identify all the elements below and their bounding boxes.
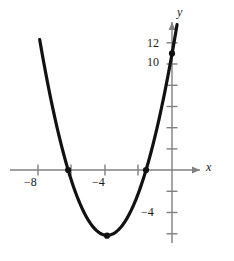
chart-canvas [0, 0, 234, 261]
data-point-marker [143, 167, 149, 173]
x-tick-label-neg4: −4 [92, 176, 105, 188]
data-point-marker [65, 167, 71, 173]
y-axis-arrowhead [169, 22, 176, 30]
data-point-marker [104, 233, 110, 239]
y-tick-label-12: 12 [147, 37, 159, 49]
y-tick-label-10: 10 [147, 56, 159, 68]
x-axis-arrowhead [192, 167, 200, 174]
parabola-figure: x y −8 −4 12 10 −4 [0, 0, 234, 261]
y-axis-label: y [177, 6, 182, 18]
data-point-marker [169, 50, 175, 56]
y-tick-label-neg4: −4 [141, 206, 154, 218]
x-tick-label-neg8: −8 [24, 176, 37, 188]
x-axis-label: x [206, 161, 211, 173]
